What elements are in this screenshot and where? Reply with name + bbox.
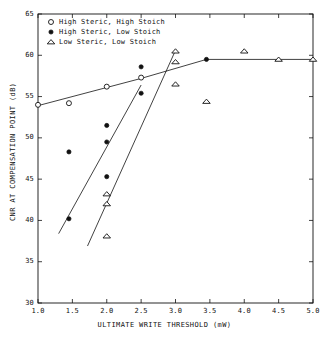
x-tick-label: 4.5 — [265, 307, 293, 315]
x-tick-label: 5.0 — [299, 307, 327, 315]
axis-ticks — [38, 14, 313, 303]
plot-canvas — [0, 0, 329, 343]
chart-figure: 1.01.52.02.53.03.54.04.55.0 303540455055… — [0, 0, 329, 343]
x-tick-label: 1.5 — [58, 307, 86, 315]
y-tick-label: 60 — [6, 51, 34, 59]
x-tick-label: 2.5 — [127, 307, 155, 315]
data-points — [36, 49, 317, 238]
x-tick-label: 3.5 — [196, 307, 224, 315]
y-tick-label: 65 — [6, 10, 34, 18]
y-tick-label: 35 — [6, 257, 34, 265]
x-tick-label: 4.0 — [230, 307, 258, 315]
x-tick-label: 3.0 — [162, 307, 190, 315]
x-tick-label: 2.0 — [93, 307, 121, 315]
plot-frame — [38, 14, 313, 303]
legend-symbols — [47, 20, 55, 44]
legend-item: Low Steric, Low Stoich — [59, 38, 156, 46]
legend-item: High Steric, High Stoich — [59, 18, 165, 26]
y-tick-label: 30 — [6, 299, 34, 307]
x-axis-title: ULTIMATE WRITE THRESHOLD (mW) — [0, 321, 329, 329]
x-tick-label: 1.0 — [24, 307, 52, 315]
y-axis-title: CNR AT COMPENSATION POINT (dB) — [9, 82, 17, 220]
trend-lines — [38, 50, 313, 246]
legend-item: High Steric, Low Stoich — [59, 28, 161, 36]
